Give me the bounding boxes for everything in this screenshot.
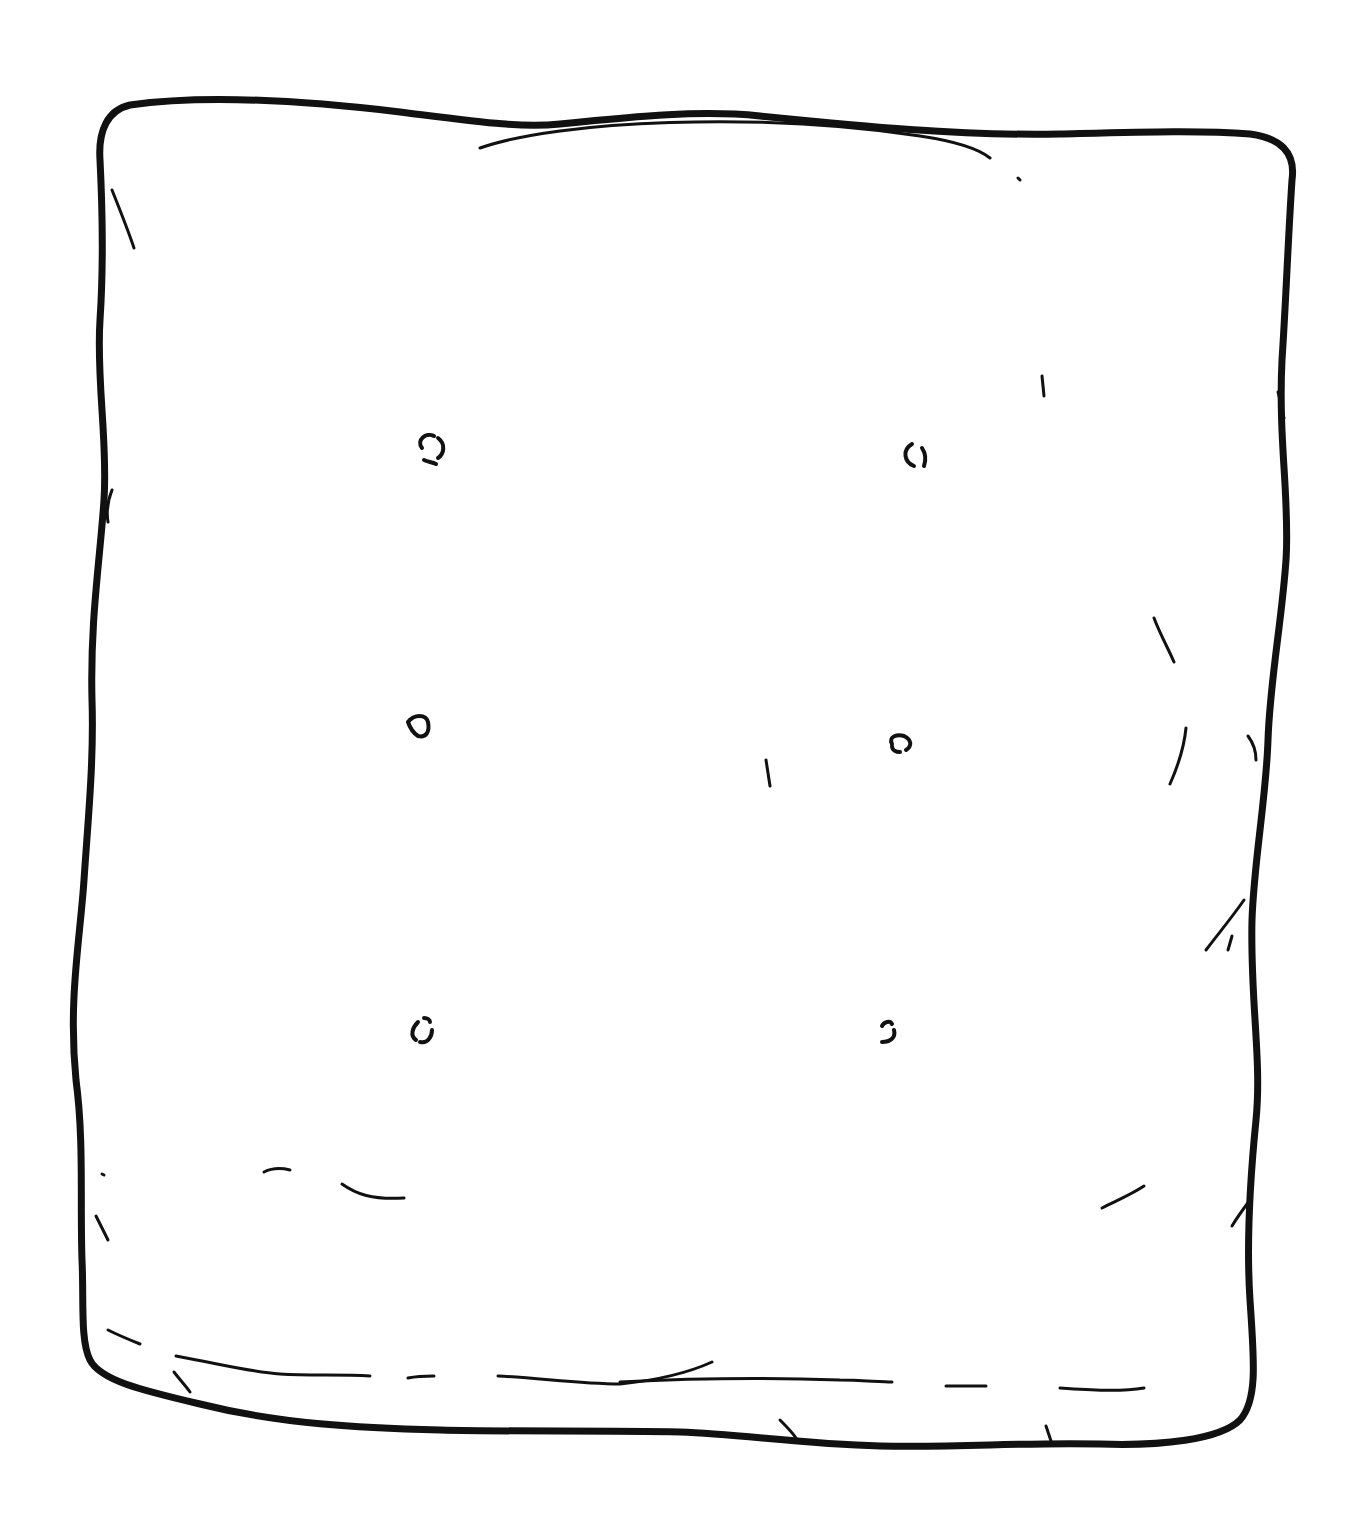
small-tick-upper bbox=[1042, 376, 1044, 396]
bottom-corner-nick-left bbox=[174, 1372, 190, 1392]
right-side-crack bbox=[1206, 900, 1244, 950]
small-tick-center bbox=[766, 760, 770, 786]
docking-hole-6 bbox=[882, 1022, 894, 1042]
bottom-right-curve bbox=[1102, 1186, 1144, 1208]
left-dot bbox=[102, 1174, 104, 1175]
docking-hole-1 bbox=[420, 435, 443, 464]
docking-hole-4 bbox=[891, 735, 910, 752]
bottom-left-curve bbox=[342, 1184, 404, 1198]
right-side-nick-mid bbox=[1248, 736, 1256, 760]
right-crease-1 bbox=[1154, 618, 1174, 662]
top-left-nick bbox=[112, 190, 134, 248]
bottom-left-dash bbox=[264, 1169, 290, 1172]
docking-hole-5 bbox=[412, 1018, 432, 1042]
bottom-edge-line-7 bbox=[1060, 1388, 1144, 1390]
docking-hole-3 bbox=[408, 716, 429, 736]
cracker-drawing bbox=[0, 0, 1354, 1538]
bottom-corner-nick-mid bbox=[780, 1420, 796, 1438]
bottom-edge-line-1 bbox=[108, 1330, 140, 1344]
docking-hole-2 bbox=[905, 444, 925, 466]
bottom-edge-line-5 bbox=[620, 1379, 892, 1382]
top-right-dot bbox=[1018, 178, 1020, 180]
left-bottom-nick bbox=[96, 1216, 108, 1240]
cracker-illustration bbox=[0, 0, 1354, 1538]
left-side-nick bbox=[107, 490, 112, 522]
bottom-edge-line-3 bbox=[408, 1376, 434, 1378]
cracker-outline bbox=[73, 100, 1292, 1447]
right-crease-2 bbox=[1170, 728, 1186, 784]
bottom-edge-line-2 bbox=[176, 1356, 370, 1376]
